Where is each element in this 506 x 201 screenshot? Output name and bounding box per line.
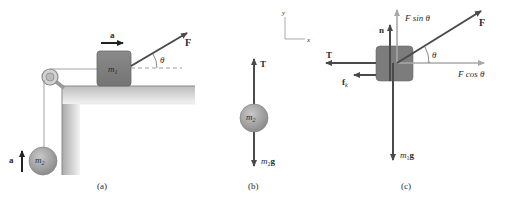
force-f-label-c: F xyxy=(479,17,485,28)
friction-label: fk xyxy=(342,77,348,88)
angle-arc-c xyxy=(425,47,429,63)
accel-label-side: a xyxy=(9,155,14,165)
axis-y-label: y xyxy=(281,9,286,17)
force-f-label: F xyxy=(185,37,191,48)
tension-label-c: T xyxy=(326,50,332,60)
coordinate-axes: y x xyxy=(281,9,311,44)
physics-diagram: m1 F θ a m2 a (a) T m2 m2g xyxy=(0,0,506,201)
fsin-label: F sin θ xyxy=(404,13,431,23)
force-f-arrow xyxy=(131,33,187,66)
angle-theta-label: θ xyxy=(160,55,165,65)
weight-label-b: m2g xyxy=(261,156,276,167)
weight-label-c: m1g xyxy=(400,150,415,161)
tension-label-b: T xyxy=(260,59,266,69)
panel-b: T m2 m2g (b) xyxy=(240,59,276,191)
accel-label-top: a xyxy=(110,30,115,40)
panel-a: m1 F θ a m2 a (a) xyxy=(9,30,195,191)
angle-arc xyxy=(153,54,157,68)
panel-c: y x F cos θ F sin θ n m1g T fk F xyxy=(281,9,485,191)
normal-label: n xyxy=(379,25,384,35)
caption-c: (c) xyxy=(401,181,411,191)
caption-b: (b) xyxy=(248,181,259,191)
angle-theta-label-c: θ xyxy=(432,50,437,60)
table-top xyxy=(62,86,195,104)
axis-x-label: x xyxy=(306,36,311,44)
fcos-label: F cos θ xyxy=(457,69,485,79)
caption-a: (a) xyxy=(97,181,107,191)
